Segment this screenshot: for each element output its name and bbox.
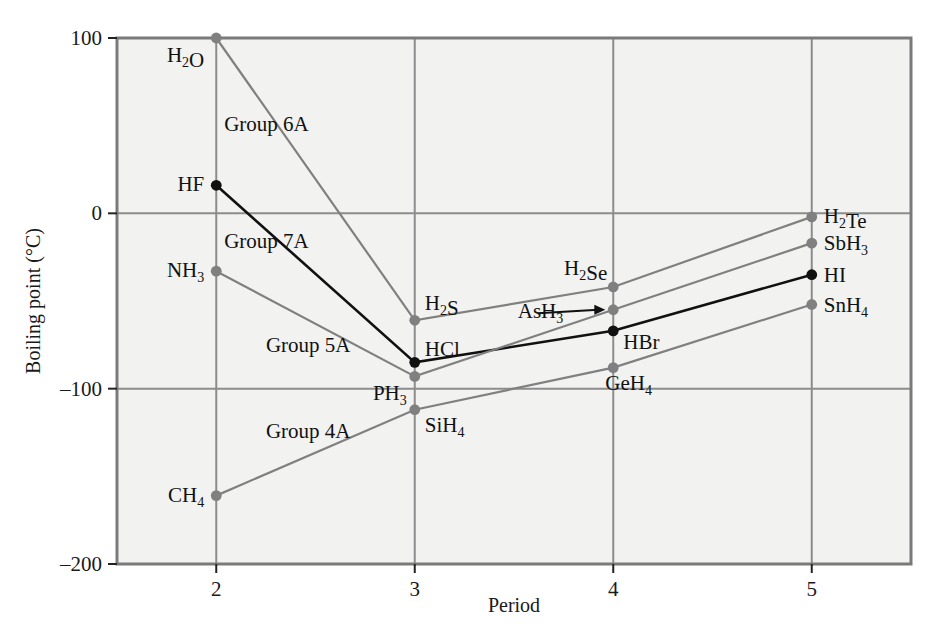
y-tick-label: –100 xyxy=(59,377,102,401)
data-point-nh3 xyxy=(211,266,222,277)
point-label: HBr xyxy=(623,330,659,354)
x-tick-label: 2 xyxy=(211,577,222,601)
y-tick-label: 100 xyxy=(71,26,103,50)
y-tick-label: –200 xyxy=(59,552,102,576)
data-point-sbh3 xyxy=(806,238,817,249)
data-point-h2te xyxy=(806,211,817,222)
boiling-point-chart: 2345 1000–100–200 H2OHFNH3CH4H2SHClPH3Si… xyxy=(0,0,939,633)
data-point-h2s xyxy=(409,315,420,326)
data-point-hcl xyxy=(409,357,420,368)
data-point-ash3 xyxy=(608,304,619,315)
point-label: HF xyxy=(177,172,204,196)
y-axis-title: Boiling point (°C) xyxy=(22,228,45,374)
y-tick-label: 0 xyxy=(92,201,103,225)
data-point-sih4 xyxy=(409,404,420,415)
point-label: HCl xyxy=(425,337,460,361)
data-point-hf xyxy=(211,180,222,191)
data-point-ph3 xyxy=(409,371,420,382)
group-label: Group 4A xyxy=(266,419,351,443)
data-point-snh4 xyxy=(806,299,817,310)
group-label: Group 5A xyxy=(266,333,351,357)
group-label: Group 7A xyxy=(224,229,309,253)
x-tick-label: 3 xyxy=(410,577,421,601)
data-point-ch4 xyxy=(211,490,222,501)
data-point-h2o xyxy=(211,33,222,44)
group-label: Group 6A xyxy=(224,112,309,136)
x-axis-title: Period xyxy=(488,594,540,616)
data-point-h2se xyxy=(608,282,619,293)
point-label: GeH4 xyxy=(605,371,652,398)
x-tick-label: 4 xyxy=(608,577,619,601)
data-point-hbr xyxy=(608,325,619,336)
point-label: HI xyxy=(824,263,846,287)
chart-svg: 2345 1000–100–200 H2OHFNH3CH4H2SHClPH3Si… xyxy=(0,0,939,633)
x-tick-label: 5 xyxy=(807,577,818,601)
data-point-hi xyxy=(806,269,817,280)
